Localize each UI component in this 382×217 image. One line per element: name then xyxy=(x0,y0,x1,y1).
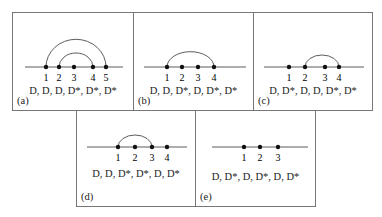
svg-text:3: 3 xyxy=(276,152,281,163)
svg-text:1: 1 xyxy=(116,152,121,163)
arc-diagram-a: 1 2 3 4 5 xyxy=(13,13,135,112)
arc-diagram-c: 1 2 3 4 xyxy=(254,13,374,112)
panel-b: 1 2 3 4 D, D, D*, D, D*, D* (b) xyxy=(133,12,254,111)
svg-text:5: 5 xyxy=(104,72,109,83)
svg-text:2: 2 xyxy=(133,152,138,163)
panel-label: (a) xyxy=(17,95,29,106)
arc-diagram-d: 1 2 3 4 xyxy=(77,111,197,208)
sequence-text: D, D*, D, D*, D, D* xyxy=(196,171,315,182)
arc-diagram-b: 1 2 3 4 xyxy=(134,13,255,112)
panel-label: (d) xyxy=(81,191,93,202)
svg-text:3: 3 xyxy=(150,152,155,163)
sequence-text: D, D, D, D*, D*, D* xyxy=(13,85,133,96)
sequence-text: D, D, D*, D, D*, D* xyxy=(134,85,253,96)
svg-text:2: 2 xyxy=(57,72,62,83)
svg-text:2: 2 xyxy=(258,152,263,163)
svg-text:3: 3 xyxy=(72,72,77,83)
svg-text:4: 4 xyxy=(91,72,96,83)
panel-d: 1 2 3 4 D, D, D*, D*, D, D* (d) xyxy=(76,110,196,207)
svg-text:4: 4 xyxy=(337,72,342,83)
svg-text:3: 3 xyxy=(196,72,201,83)
svg-text:1: 1 xyxy=(287,72,292,83)
panel-c: 1 2 3 4 D, D*, D, D, D*, D* (c) xyxy=(253,12,373,111)
svg-text:4: 4 xyxy=(165,152,170,163)
panel-a: 1 2 3 4 5 D, D, D, D*, D*, D* (a) xyxy=(12,12,134,111)
svg-text:1: 1 xyxy=(242,152,247,163)
arc-diagram-e: 1 2 3 xyxy=(196,111,317,208)
svg-text:3: 3 xyxy=(323,72,328,83)
svg-text:1: 1 xyxy=(165,72,170,83)
svg-text:2: 2 xyxy=(180,72,185,83)
panel-label: (b) xyxy=(138,95,150,106)
panel-label: (c) xyxy=(258,95,270,106)
svg-text:4: 4 xyxy=(212,72,217,83)
sequence-text: D, D*, D, D, D*, D* xyxy=(254,85,372,96)
svg-text:2: 2 xyxy=(303,72,308,83)
sequence-text: D, D, D*, D*, D, D* xyxy=(77,168,195,179)
panel-label: (e) xyxy=(200,191,212,202)
panel-e: 1 2 3 D, D*, D, D*, D, D* (e) xyxy=(195,110,316,207)
node-label: 1 xyxy=(44,72,49,83)
